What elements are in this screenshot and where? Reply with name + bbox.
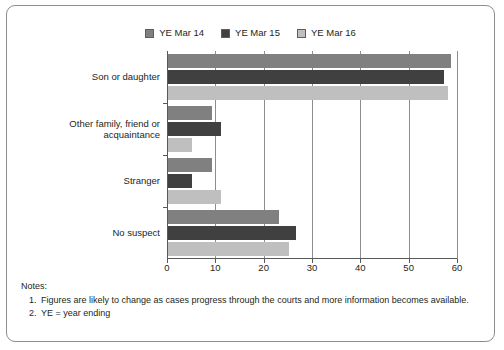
note-text: YE = year ending (41, 307, 487, 320)
y-axis-line (167, 51, 168, 259)
category-axis-labels: Son or daughterOther family, friend or a… (7, 51, 160, 259)
note-text: Figures are likely to change as cases pr… (41, 294, 487, 307)
legend-item-label: YE Mar 16 (311, 28, 356, 38)
bar (168, 54, 451, 68)
figure-frame: YE Mar 14YE Mar 15YE Mar 16 Son or daugh… (6, 5, 495, 342)
note-number: 1. (21, 294, 41, 307)
bar (168, 158, 212, 172)
bar (168, 242, 289, 256)
notes-list: 1.Figures are likely to change as cases … (21, 294, 487, 320)
category-label: Son or daughter (12, 71, 160, 83)
x-axis-tick-label: 60 (452, 262, 463, 273)
x-axis-tick-label: 20 (258, 262, 269, 273)
legend-item: YE Mar 16 (297, 28, 356, 38)
bar (168, 210, 279, 224)
x-axis-tick-label: 0 (164, 262, 169, 273)
legend-item: YE Mar 14 (145, 28, 204, 38)
bar (168, 70, 444, 84)
category-label: No suspect (12, 227, 160, 239)
x-axis-tick-label: 40 (355, 262, 366, 273)
note-number: 2. (21, 307, 41, 320)
bar (168, 122, 221, 136)
y-axis-tick (163, 207, 167, 208)
legend-swatch-ye-mar-16 (297, 29, 306, 38)
legend-item-label: YE Mar 15 (235, 28, 280, 38)
notes-title: Notes: (21, 280, 487, 292)
note-item: 2.YE = year ending (21, 307, 487, 320)
category-label: Other family, friend or acquaintance (12, 118, 160, 141)
notes-block: Notes: 1.Figures are likely to change as… (21, 280, 487, 320)
bar (168, 174, 192, 188)
x-axis-tick-label: 30 (307, 262, 318, 273)
legend-swatch-ye-mar-15 (221, 29, 230, 38)
note-item: 1.Figures are likely to change as cases … (21, 294, 487, 307)
y-axis-tick (163, 155, 167, 156)
y-axis-tick (163, 103, 167, 104)
bar (168, 86, 448, 100)
bar (168, 190, 221, 204)
plot-area (167, 51, 457, 259)
x-axis-tick-label: 50 (403, 262, 414, 273)
gridline (457, 51, 458, 259)
x-axis-tick-label: 10 (210, 262, 221, 273)
bar (168, 138, 192, 152)
legend-swatch-ye-mar-14 (145, 29, 154, 38)
legend-item: YE Mar 15 (221, 28, 280, 38)
chart-legend: YE Mar 14YE Mar 15YE Mar 16 (7, 28, 494, 38)
category-label: Stranger (12, 175, 160, 187)
bar (168, 226, 296, 240)
bar (168, 106, 212, 120)
legend-item-label: YE Mar 14 (159, 28, 204, 38)
